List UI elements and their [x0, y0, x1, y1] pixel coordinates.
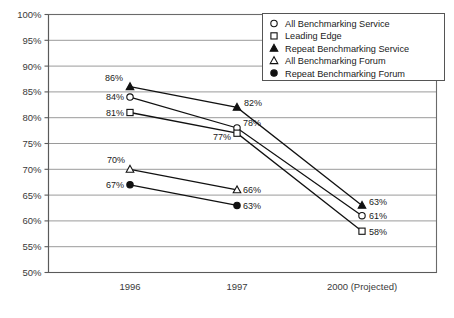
- filled-triangle-marker: [126, 83, 134, 90]
- point-value-label: 86%: [105, 73, 123, 83]
- y-axis-tick-label: 55%: [22, 241, 42, 252]
- legend-item-label: Repeat Benchmarking Forum: [285, 69, 405, 79]
- point-value-label: 81%: [106, 108, 124, 118]
- open-circle-marker: [127, 94, 133, 100]
- open-square-marker: [234, 130, 240, 136]
- y-axis-tick-label: 60%: [22, 215, 42, 226]
- y-axis-tick-label: 75%: [22, 138, 42, 149]
- filled-circle-marker: [234, 202, 240, 208]
- x-axis-tick-label: 1996: [119, 281, 140, 292]
- point-value-label: 78%: [243, 118, 261, 128]
- point-value-label: 63%: [243, 201, 261, 211]
- y-axis-tick-label: 100%: [17, 9, 42, 20]
- y-axis-tick-label: 50%: [22, 267, 42, 278]
- point-value-labels: 84%78%61%81%77%58%86%82%63%70%66%67%63%: [105, 73, 387, 237]
- legend-item-label: Repeat Benchmarking Service: [285, 44, 409, 54]
- point-value-label: 70%: [107, 155, 125, 165]
- open-circle-marker: [271, 20, 277, 26]
- chart-legend: All Benchmarking ServiceLeading EdgeRepe…: [263, 14, 445, 81]
- legend-item-label: Leading Edge: [285, 31, 342, 41]
- x-axis-tick-label: 1997: [226, 281, 247, 292]
- x-axis-tick-labels: 199619972000 (Projected): [119, 281, 397, 292]
- point-value-label: 77%: [213, 132, 231, 142]
- series-line: [130, 169, 237, 190]
- y-axis-tick-labels: 100%95%90%85%80%75%70%65%60%55%50%: [17, 9, 42, 278]
- open-square-marker: [359, 228, 365, 234]
- y-axis-tick-label: 95%: [22, 35, 42, 46]
- y-axis-tick-label: 65%: [22, 190, 42, 201]
- point-value-label: 82%: [244, 98, 262, 108]
- open-triangle-marker: [126, 165, 134, 172]
- open-circle-marker: [359, 213, 365, 219]
- chart-canvas: 100%95%90%85%80%75%70%65%60%55%50% 19961…: [0, 0, 454, 318]
- y-axis-tick-label: 85%: [22, 86, 42, 97]
- point-value-label: 84%: [106, 92, 124, 102]
- point-value-label: 63%: [369, 197, 387, 207]
- benchmarking-line-chart: 100%95%90%85%80%75%70%65%60%55%50% 19961…: [0, 0, 454, 318]
- series-line: [130, 113, 362, 232]
- point-value-label: 61%: [369, 211, 387, 221]
- open-square-marker: [271, 33, 277, 39]
- legend-item-label: All Benchmarking Service: [285, 19, 390, 29]
- filled-triangle-marker: [358, 201, 366, 208]
- y-axis-tick-label: 70%: [22, 164, 42, 175]
- filled-circle-marker: [271, 70, 277, 76]
- point-value-label: 66%: [243, 185, 261, 195]
- x-axis-tick-label: 2000 (Projected): [327, 281, 397, 292]
- legend-item-label: All Benchmarking Forum: [285, 56, 386, 66]
- y-axis-tick-label: 80%: [22, 112, 42, 123]
- point-value-label: 58%: [369, 227, 387, 237]
- open-square-marker: [127, 109, 133, 115]
- point-value-label: 67%: [106, 180, 124, 190]
- y-axis-tick-label: 90%: [22, 61, 42, 72]
- filled-circle-marker: [127, 182, 133, 188]
